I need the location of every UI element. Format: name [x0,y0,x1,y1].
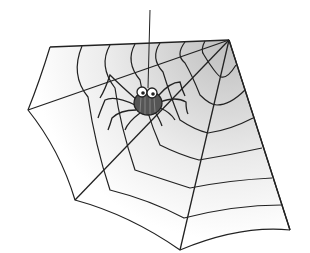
web-shading [28,40,290,250]
spider-web-illustration: Cartoon spider hanging from a thread on … [0,0,310,253]
web-svg [0,0,310,253]
